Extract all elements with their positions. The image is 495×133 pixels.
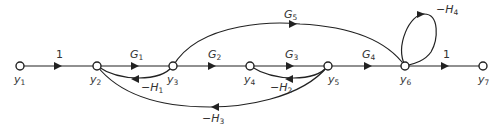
signal-flow-graph: y1 y2 y3 y4 y5 y6 y7 1 G1 −H1 G2 G3 −H2 … <box>0 0 495 133</box>
edge-gains: 1 G1 −H1 G2 G3 −H2 G4 G5 −H4 −H3 1 <box>56 3 459 126</box>
label-y5: y5 <box>327 73 340 87</box>
node-y5 <box>324 62 332 70</box>
node-labels: y1 y2 y3 y4 y5 y6 y7 <box>13 73 490 87</box>
label-y6: y6 <box>399 73 412 87</box>
node-y6 <box>401 62 409 70</box>
node-y1 <box>16 62 24 70</box>
gain-y1-y2: 1 <box>56 48 63 61</box>
arrowheads <box>54 11 449 111</box>
label-y3: y3 <box>166 73 179 87</box>
gain-minus-h1: −H1 <box>141 81 164 95</box>
node-y3 <box>169 62 177 70</box>
gain-minus-h3: −H3 <box>202 112 225 126</box>
gain-g5: G5 <box>284 8 298 22</box>
gain-y6-y7: 1 <box>443 48 450 61</box>
node-y4 <box>246 62 254 70</box>
gain-g1: G1 <box>130 48 144 62</box>
label-y2: y2 <box>89 73 102 87</box>
gain-g4: G4 <box>362 48 376 62</box>
gain-g2: G2 <box>208 48 222 62</box>
gain-minus-h4: −H4 <box>436 3 459 17</box>
label-y7: y7 <box>477 73 490 87</box>
gain-g3: G3 <box>285 48 299 62</box>
label-y1: y1 <box>13 73 26 87</box>
edge-minus-h3 <box>97 66 328 107</box>
gain-minus-h2: −H2 <box>270 81 293 95</box>
edge-minus-h4 <box>402 14 436 66</box>
label-y4: y4 <box>243 73 256 87</box>
node-y7 <box>479 62 487 70</box>
node-y2 <box>93 62 101 70</box>
